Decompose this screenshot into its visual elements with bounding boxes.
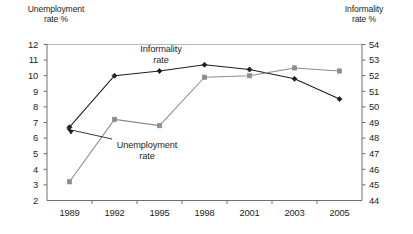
plot-area bbox=[0, 0, 413, 234]
unemployment-series-annotation: Unemployment rate bbox=[95, 140, 199, 161]
informality-series-annotation: Informality rate bbox=[118, 44, 204, 65]
chart-container: Unemployment rate % Informality rate % 2… bbox=[0, 0, 413, 234]
